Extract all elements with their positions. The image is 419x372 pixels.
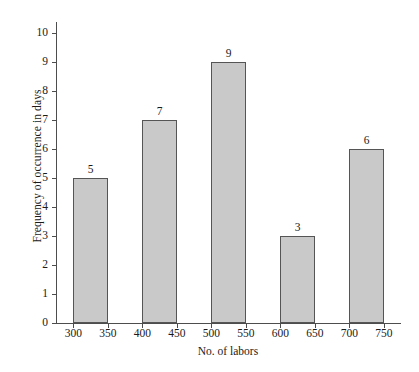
x-tick-mark [315,324,316,328]
y-tick-label: 10 [26,27,48,39]
y-tick-mark [52,120,56,121]
x-tick-label: 750 [364,328,404,340]
bar-value-label: 7 [142,106,177,118]
y-tick-mark [52,62,56,63]
x-tick-mark [142,324,143,328]
x-tick-mark [177,324,178,328]
y-tick-mark [52,91,56,92]
y-tick-label: 1 [26,288,48,300]
bar-value-label: 9 [211,48,246,60]
x-tick-mark [384,324,385,328]
y-tick-mark [52,265,56,266]
x-tick-mark [211,324,212,328]
y-tick-mark [52,149,56,150]
y-tick-mark [52,236,56,237]
y-tick-mark [52,294,56,295]
bar [73,178,108,323]
y-axis-title: Frequency of occurrence in days [31,56,43,276]
y-tick-label: 0 [26,317,48,329]
bar-chart: 012345678910 300350400450500550600650700… [0,0,419,372]
bar [142,120,177,323]
bar [349,149,384,323]
x-tick-mark [246,324,247,328]
bar-value-label: 6 [349,135,384,147]
x-tick-mark [280,324,281,328]
y-tick-mark [52,323,56,324]
bar [280,236,315,323]
x-tick-mark [349,324,350,328]
x-tick-mark [108,324,109,328]
x-axis-title: No. of labors [56,345,400,357]
x-tick-mark [73,324,74,328]
y-tick-mark [52,178,56,179]
y-tick-mark [52,33,56,34]
bar-value-label: 5 [73,164,108,176]
bar-value-label: 3 [280,222,315,234]
y-axis-line [56,22,57,324]
y-tick-mark [52,207,56,208]
bar [211,62,246,323]
